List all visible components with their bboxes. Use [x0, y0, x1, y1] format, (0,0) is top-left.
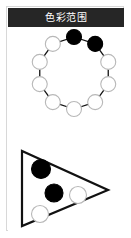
color-range-triangle — [8, 27, 124, 231]
triangle-swatch-4[interactable] — [32, 206, 49, 223]
triangle-swatch-2[interactable] — [45, 184, 63, 202]
panel-header: 色彩范围 — [8, 8, 124, 27]
triangle-swatch-3[interactable] — [70, 187, 87, 204]
diagram-canvas — [8, 27, 124, 231]
color-range-panel: 色彩范围 — [6, 6, 124, 231]
panel-title: 色彩范围 — [45, 13, 87, 23]
triangle-swatch-1[interactable] — [32, 160, 51, 179]
